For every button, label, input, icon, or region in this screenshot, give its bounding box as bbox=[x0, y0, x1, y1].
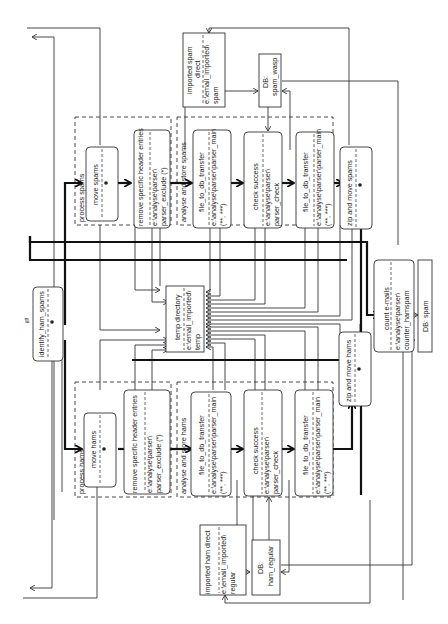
count-path1: e:\analyse\parser\ bbox=[393, 293, 402, 350]
node-identify-ham-spams[interactable]: identify_ham_spams ⇅ bbox=[24, 287, 63, 361]
actor-icon bbox=[102, 447, 106, 451]
transfer-title: file_to_db_transfer bbox=[301, 415, 310, 475]
node-move-spams[interactable]: move spams bbox=[86, 147, 118, 221]
move-hams-title: move hams bbox=[89, 430, 98, 468]
node-imported-spam[interactable]: imported spam direct e:\email_imported\ … bbox=[183, 33, 225, 107]
remove-header-title: remove specific header entries bbox=[130, 395, 139, 493]
check-title: check success bbox=[251, 427, 260, 474]
check-title: check success bbox=[251, 163, 260, 210]
temp-dir-path2: temp bbox=[193, 334, 202, 350]
node-ham-file-to-db-1[interactable]: file_to_db_transfer e:\analyse\parser\pa… bbox=[191, 392, 231, 496]
transfer-path1: e:\analyse\parser\parser_main bbox=[209, 397, 218, 494]
actor-icon bbox=[104, 181, 108, 185]
imported-spam-line2: direct bbox=[193, 60, 202, 78]
node-remove-header-ham[interactable]: remove specific header entries e:\analys… bbox=[124, 390, 170, 494]
node-ham-check-success[interactable]: check success e:\analyse\parser\ parser_… bbox=[244, 390, 282, 496]
check-path1: e:\analyse\parser\ bbox=[263, 169, 272, 226]
actor-icon bbox=[50, 320, 54, 324]
transfer-path2: (**, ***) bbox=[218, 471, 227, 494]
group-label-analyse-store-spams: analyse and store spams bbox=[179, 142, 188, 222]
node-db-ham-regular[interactable]: DB: ham_regular bbox=[252, 540, 280, 595]
db-ham-regular-line2: ham_regular bbox=[266, 545, 275, 586]
transfer-path2: (**, ***) bbox=[322, 471, 331, 494]
transfer-title: file_to_db_transfer bbox=[197, 152, 206, 212]
zip-hams-title: zip and move hams bbox=[344, 339, 353, 402]
zip-spams-title: zip and move spams bbox=[345, 160, 354, 226]
remove-header-title: remove specific header entries bbox=[136, 128, 145, 226]
imported-ham-line3: regular bbox=[228, 571, 237, 594]
transfer-path1: e:\analyse\parser\parser_main bbox=[209, 129, 218, 226]
up-down-arrows-icon: ⇅ bbox=[24, 316, 30, 325]
transfer-path1: e:\analyse\parser\parser_main bbox=[313, 397, 322, 494]
check-path2: parser_check bbox=[271, 450, 280, 494]
node-temp-directory[interactable]: temp directory e:\email_imported\ temp bbox=[166, 286, 204, 352]
group-label-process-spams: process spams bbox=[77, 173, 86, 222]
imported-spam-line3: e:\email_imported\ bbox=[202, 45, 211, 104]
db-spam-title: DB: spam bbox=[421, 300, 430, 332]
node-spam-check-success[interactable]: check success e:\analyse\parser\ parser_… bbox=[244, 132, 282, 228]
move-spams-title: move spams bbox=[91, 164, 100, 205]
db-spam-wasp-line1: DB: bbox=[261, 76, 270, 88]
node-zip-move-spams[interactable]: zip and move spams bbox=[340, 147, 372, 229]
imported-ham-line2: e:\email_imported\ bbox=[219, 535, 228, 594]
flow-diagram: process spams analyse and store spams pr… bbox=[0, 0, 448, 624]
imported-ham-line1: imported ham direct bbox=[203, 530, 212, 594]
actor-icon bbox=[358, 183, 362, 187]
remove-header-path1: e:\analyse\parser\ bbox=[150, 169, 159, 226]
check-path1: e:\analyse\parser\ bbox=[262, 437, 271, 494]
node-spam-file-to-db-1[interactable]: file_to_db_transfer e:\analyse\parser\pa… bbox=[193, 129, 231, 228]
node-remove-header-spam[interactable]: remove specific header entries e:\analys… bbox=[134, 128, 170, 228]
db-ham-regular-line1: DB: bbox=[256, 562, 265, 574]
check-path2: parser_check bbox=[272, 182, 281, 226]
imported-spam-line4: spam bbox=[211, 86, 220, 104]
node-move-hams[interactable]: move hams bbox=[84, 413, 116, 487]
transfer-path2: (**, ***) bbox=[323, 203, 332, 226]
remove-header-path2: parser_exclude (*) bbox=[154, 434, 163, 493]
temp-dir-path1: e:\email_imported\ bbox=[184, 291, 193, 350]
node-ham-file-to-db-2[interactable]: file_to_db_transfer e:\analyse\parser\pa… bbox=[295, 390, 333, 496]
count-path2: counter_hamspam bbox=[402, 290, 411, 350]
count-title: count e-mails bbox=[382, 287, 391, 330]
remove-header-path1: e:\analyse\parser\ bbox=[145, 436, 154, 493]
identify-title: identify_ham_spams bbox=[37, 291, 46, 357]
node-db-spam-wasp[interactable]: DB: spam_wasp bbox=[259, 54, 281, 107]
node-spam-file-to-db-2[interactable]: file_to_db_transfer e:\analyse\parser\pa… bbox=[296, 129, 334, 228]
node-count-emails[interactable]: count e-mails e:\analyse\parser\ counter… bbox=[374, 260, 414, 352]
node-imported-ham[interactable]: imported ham direct e:\email_imported\ r… bbox=[200, 525, 246, 595]
node-db-spam[interactable]: DB: spam bbox=[418, 260, 432, 352]
remove-header-path2: parser_exclude (*) bbox=[159, 167, 168, 226]
transfer-path2: (**, ***) bbox=[218, 203, 227, 226]
transfer-title: file_to_db_transfer bbox=[197, 415, 206, 475]
db-spam-wasp-line2: spam_wasp bbox=[270, 58, 279, 96]
temp-dir-title: temp directory bbox=[173, 294, 182, 340]
transfer-path1: e:\analyse\parser\parser_main bbox=[314, 129, 323, 226]
node-zip-move-hams[interactable]: zip and move hams bbox=[339, 332, 371, 406]
connectors bbox=[23, 28, 418, 603]
transfer-title: file_to_db_transfer bbox=[301, 152, 310, 212]
group-label-analyse-store-hams: analyse and store hams bbox=[179, 417, 188, 494]
actor-icon bbox=[357, 367, 361, 371]
